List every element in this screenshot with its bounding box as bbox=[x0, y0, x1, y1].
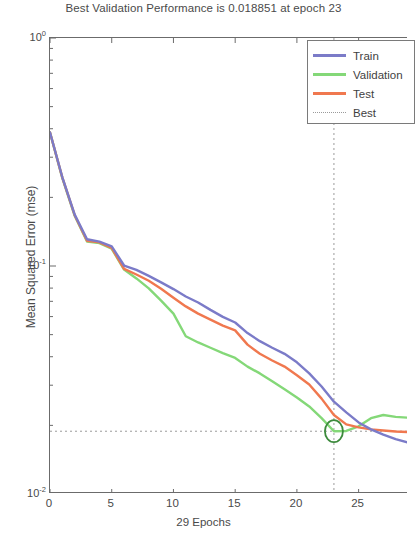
series-line-train bbox=[50, 133, 407, 443]
legend-swatch-best bbox=[313, 112, 346, 113]
x-tick-label-5: 5 bbox=[108, 497, 114, 509]
legend-swatch-train bbox=[313, 54, 346, 57]
y-tick-label-1e-2: 10-2 bbox=[27, 485, 46, 499]
x-tick-label-25: 25 bbox=[351, 497, 364, 509]
legend-swatch-validation bbox=[313, 73, 346, 76]
series-line-test bbox=[50, 133, 407, 433]
legend-item-validation[interactable]: Validation bbox=[308, 65, 414, 84]
legend-label-validation: Validation bbox=[353, 69, 403, 81]
x-tick-label-0: 0 bbox=[46, 497, 52, 509]
y-axis-tick-labels: 100 10-1 10-2 bbox=[0, 0, 46, 537]
chart-legend: Train Validation Test Best bbox=[307, 40, 415, 124]
x-tick-label-10: 10 bbox=[166, 497, 179, 509]
legend-label-test: Test bbox=[353, 88, 374, 100]
legend-item-train[interactable]: Train bbox=[308, 46, 414, 65]
y-axis-title: Mean Squared Error (mse) bbox=[24, 142, 38, 372]
series-line-validation bbox=[50, 133, 407, 432]
legend-item-test[interactable]: Test bbox=[308, 84, 414, 103]
y-tick-label-1e0: 100 bbox=[30, 29, 46, 43]
legend-swatch-test bbox=[313, 92, 346, 95]
x-tick-label-15: 15 bbox=[228, 497, 241, 509]
legend-label-best: Best bbox=[353, 107, 376, 119]
x-axis-title: 29 Epochs bbox=[0, 516, 407, 528]
x-tick-label-20: 20 bbox=[289, 497, 302, 509]
legend-item-best[interactable]: Best bbox=[308, 103, 414, 122]
chart-title: Best Validation Performance is 0.018851 … bbox=[0, 2, 407, 14]
legend-label-train: Train bbox=[353, 50, 379, 62]
